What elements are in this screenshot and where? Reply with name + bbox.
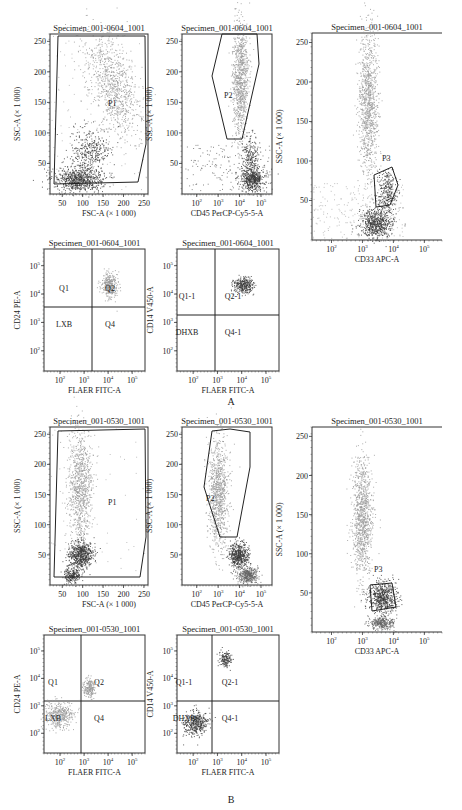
- panel-label-b: B: [228, 794, 235, 805]
- y-tick-label: 105: [163, 261, 174, 271]
- y-tick-label: 50: [170, 551, 178, 560]
- x-axis-label: FLAER FITC-A: [201, 768, 254, 777]
- y-tick-label: 150: [166, 98, 178, 107]
- y-tick-label: 100: [166, 521, 178, 530]
- x-tick-label: 104: [236, 375, 247, 385]
- panel-title: Specimen_001-0604_1001: [182, 238, 274, 248]
- scatter-panel-2: Specimen_001-0604_1001501001502002501021…: [145, 0, 279, 218]
- quadrant-label: LXB: [56, 320, 72, 329]
- x-axis-label: CD45 PerCP-Cy5-5-A: [191, 209, 264, 218]
- panel-title: Specimen_001-0604_1001: [49, 238, 141, 248]
- y-tick-label: 150: [166, 491, 178, 500]
- panel-title: Specimen_001-0604_1001: [181, 23, 273, 33]
- y-tick-label: 250: [296, 432, 308, 441]
- y-tick-label: 104: [30, 673, 41, 683]
- scatter-panel-3: Specimen_001-0604_1001501001502002501021…: [275, 0, 442, 264]
- x-tick-label: 103: [357, 636, 368, 646]
- quadrant-label: Q1-1: [179, 292, 195, 301]
- x-tick-label: 200: [118, 590, 130, 599]
- gate-label-p2: P2: [206, 494, 214, 503]
- y-tick-label: 104: [163, 673, 174, 683]
- x-tick-label: 102: [188, 375, 199, 385]
- panel-label-a: A: [227, 396, 235, 407]
- y-tick-label: 100: [34, 129, 46, 138]
- x-tick-label: 104: [103, 757, 114, 767]
- x-axis-label: FLAER FITC-A: [201, 386, 254, 395]
- y-tick-label: 104: [30, 289, 41, 299]
- y-tick-label: 50: [38, 159, 46, 168]
- y-tick-label: 103: [163, 701, 174, 711]
- y-tick-label: 100: [296, 157, 308, 166]
- y-tick-label: 250: [166, 430, 178, 439]
- scatter-panel-1: Specimen_001-0604_1001501001502002505010…: [13, 0, 156, 218]
- x-tick-label: 50: [58, 590, 66, 599]
- x-tick-label: 104: [234, 198, 245, 208]
- x-tick-label: 102: [55, 375, 66, 385]
- x-axis-label: FSC-A (× 1 000): [82, 209, 136, 218]
- quadrant-label: DHXB: [176, 328, 199, 337]
- quadrant-label: Q1-1: [176, 678, 192, 687]
- scatter-panel-9: Specimen_001-0530_1001102103104105102103…: [13, 624, 145, 777]
- x-tick-label: 105: [127, 375, 138, 385]
- x-tick-label: 105: [261, 375, 272, 385]
- quadrant-label: DHXB: [173, 714, 196, 723]
- gate-label-p3: P3: [382, 154, 390, 163]
- y-tick-label: 200: [296, 472, 308, 481]
- x-tick-label: 105: [419, 244, 430, 254]
- panel-title: Specimen_001-0530_1001: [49, 624, 141, 634]
- y-tick-label: 104: [163, 289, 174, 299]
- y-tick-label: 100: [296, 550, 308, 559]
- y-axis-label: CD14 V450-A: [146, 670, 155, 717]
- y-axis-label: SSC-A (× 1 000): [275, 109, 284, 163]
- y-axis-label: SSC-A (× 1 000): [13, 87, 22, 141]
- y-axis-label: CD14 V450-A: [146, 286, 155, 333]
- scatter-panel-8: Specimen_001-0530_1001501001502002501021…: [275, 416, 442, 656]
- y-tick-label: 103: [30, 701, 41, 711]
- x-tick-label: 103: [213, 198, 224, 208]
- x-axis-label: CD45 PerCP-Cy5-5-A: [191, 600, 264, 609]
- x-tick-label: 150: [97, 199, 109, 208]
- y-tick-label: 103: [163, 317, 174, 327]
- x-tick-label: 103: [212, 375, 223, 385]
- x-tick-label: 50: [58, 199, 66, 208]
- y-tick-label: 150: [34, 98, 46, 107]
- y-tick-label: 250: [34, 430, 46, 439]
- quadrant-label: Q4: [105, 320, 115, 329]
- gate-label-p1: P1: [108, 498, 116, 507]
- y-tick-label: 200: [34, 68, 46, 77]
- x-tick-label: 102: [191, 198, 202, 208]
- x-tick-label: 200: [118, 199, 130, 208]
- x-tick-label: 102: [55, 757, 66, 767]
- y-tick-label: 105: [30, 646, 41, 656]
- x-tick-label: 250: [138, 590, 150, 599]
- y-tick-label: 105: [163, 646, 174, 656]
- scatter-panel-4: Specimen_001-0604_1001102103104105102103…: [13, 238, 145, 395]
- x-tick-label: 105: [256, 589, 267, 599]
- y-tick-label: 50: [300, 589, 308, 598]
- x-tick-label: 103: [79, 375, 90, 385]
- scatter-panel-5: Specimen_001-0604_1001102103104105102103…: [146, 238, 279, 395]
- x-axis-label: CD33 APC-A: [355, 647, 400, 656]
- x-tick-label: 100: [77, 199, 89, 208]
- x-tick-label: 150: [97, 590, 109, 599]
- x-tick-label: 100: [77, 590, 89, 599]
- scatter-panel-7: Specimen_001-0530_1001501001502002501021…: [145, 407, 273, 609]
- x-tick-label: 250: [138, 199, 150, 208]
- y-tick-label: 150: [296, 511, 308, 520]
- y-tick-label: 250: [34, 37, 46, 46]
- x-tick-label: 104: [236, 757, 247, 767]
- y-tick-label: 50: [300, 196, 308, 205]
- y-axis-label: CD24 PE-A: [13, 674, 22, 713]
- x-tick-label: 103: [79, 757, 90, 767]
- y-tick-label: 102: [30, 728, 41, 738]
- y-tick-label: 103: [30, 317, 41, 327]
- y-axis-label: SSC-A (× 1 000): [13, 479, 22, 533]
- x-tick-label: 104: [388, 636, 399, 646]
- panel-title: Specimen_001-0530_1001: [181, 416, 273, 426]
- y-tick-label: 200: [34, 460, 46, 469]
- panel-title: Specimen_001-0604_1001: [331, 22, 423, 32]
- x-tick-label: 103: [357, 244, 368, 254]
- panel-title: Specimen_001-0530_1001: [53, 416, 145, 426]
- x-tick-label: 103: [212, 757, 223, 767]
- x-axis-label: FLAER FITC-A: [68, 768, 121, 777]
